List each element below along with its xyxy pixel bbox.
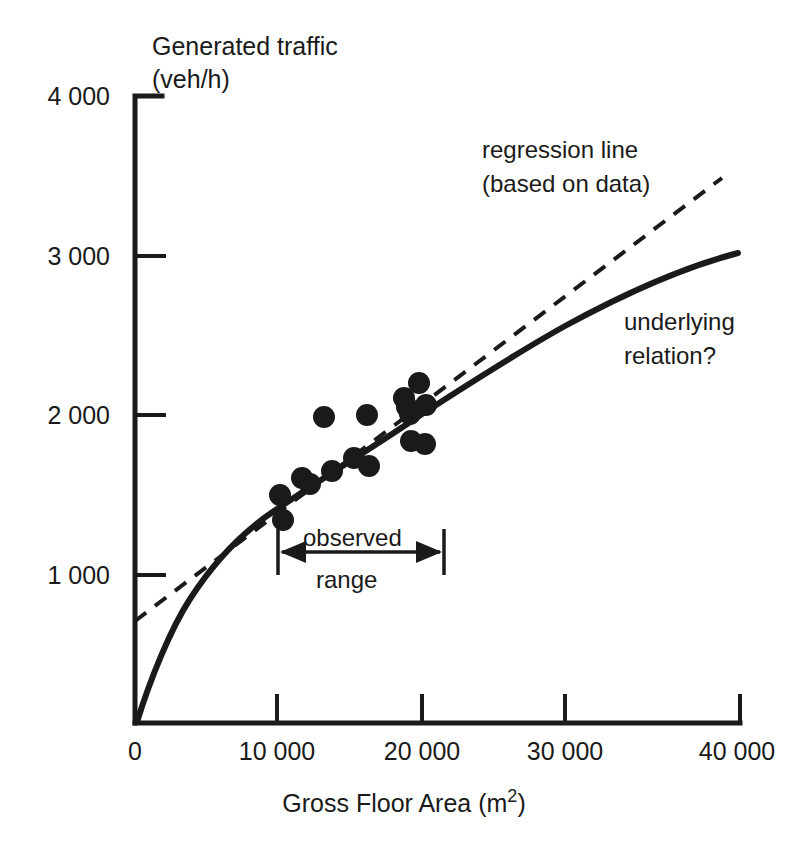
x-axis-tick-labels: 0 10 000 20 000 30 000 40 000: [128, 737, 775, 765]
observed-range-right-arrowhead: [416, 541, 442, 563]
data-point: [414, 433, 436, 455]
y-tick-label-3000: 3 000: [47, 242, 110, 270]
x-tick-label-20000: 20 000: [384, 737, 460, 765]
x-tick-label-0: 0: [128, 737, 142, 765]
x-axis-ticks: [277, 694, 740, 723]
x-axis-title-close: ): [517, 789, 525, 817]
y-axis-tick-labels: 4 000 3 000 2 000 1 000: [47, 82, 110, 589]
data-point: [272, 509, 294, 531]
scatter-plot-svg: 4 000 3 000 2 000 1 000 Generated traffi…: [0, 0, 791, 855]
y-axis-ticks: [135, 256, 166, 575]
y-axis-line: [135, 96, 162, 723]
y-tick-label-4000: 4 000: [47, 82, 110, 110]
x-axis-title-base: Gross Floor Area (m: [282, 789, 507, 817]
data-points: [269, 372, 437, 531]
x-axis-title-superscript: 2: [507, 786, 517, 806]
y-tick-label-2000: 2 000: [47, 401, 110, 429]
data-point: [408, 372, 430, 394]
x-axis-title: Gross Floor Area (m2): [282, 786, 525, 817]
observed-range-annotation: observed range: [278, 524, 444, 593]
data-point: [269, 484, 291, 506]
y-axis-title: Generated traffic (veh/h): [152, 32, 338, 93]
observed-range-left-arrowhead: [280, 541, 306, 563]
observed-range-label-line2: range: [316, 566, 377, 593]
data-point: [299, 473, 321, 495]
x-tick-label-40000: 40 000: [699, 737, 775, 765]
regression-line-annotation: regression line (based on data): [482, 136, 650, 197]
observed-range-label-line1: observed: [303, 524, 402, 551]
y-tick-label-1000: 1 000: [47, 561, 110, 589]
y-axis-title-line2: (veh/h): [152, 65, 230, 93]
x-tick-label-10000: 10 000: [239, 737, 315, 765]
data-point: [396, 396, 418, 418]
x-tick-label-30000: 30 000: [527, 737, 603, 765]
data-point: [415, 394, 437, 416]
y-axis-title-line1: Generated traffic: [152, 32, 338, 60]
data-point: [356, 404, 378, 426]
data-point: [358, 455, 380, 477]
chart-figure: 4 000 3 000 2 000 1 000 Generated traffi…: [0, 0, 791, 855]
regression-line-annotation-line1: regression line: [482, 136, 638, 163]
x-axis-title-text: Gross Floor Area (m2): [282, 786, 525, 817]
underlying-relation-annotation-line2: relation?: [624, 342, 716, 369]
data-point: [321, 460, 343, 482]
data-point: [313, 406, 335, 428]
underlying-relation-annotation: underlying relation?: [624, 308, 735, 369]
regression-line-annotation-line2: (based on data): [482, 170, 650, 197]
underlying-relation-annotation-line1: underlying: [624, 308, 735, 335]
